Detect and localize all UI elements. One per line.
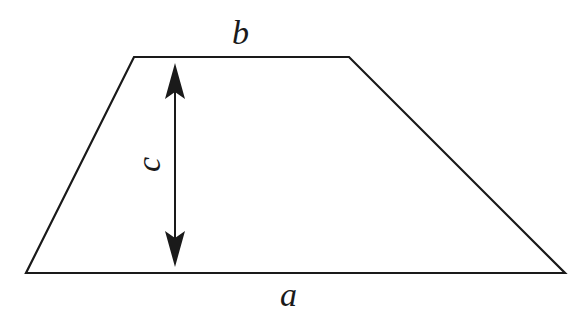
label-a: a	[280, 276, 297, 313]
height-arrow	[165, 63, 185, 267]
trapezoid-diagram: b a c	[0, 0, 583, 317]
label-c: c	[130, 157, 167, 172]
trapezoid-shape	[26, 57, 565, 273]
label-b: b	[232, 14, 249, 51]
